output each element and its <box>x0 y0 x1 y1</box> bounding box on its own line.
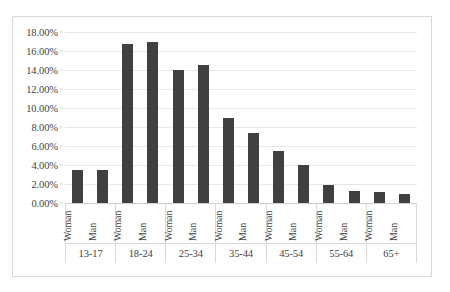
bars-layer <box>65 32 417 203</box>
bar[interactable] <box>97 170 108 203</box>
series-label: Woman <box>313 211 324 241</box>
x-axis-category-cell: WomanMan25-34 <box>165 203 215 263</box>
bar-slot <box>291 32 316 203</box>
category-label: 35-44 <box>229 248 253 259</box>
category-label: 55-64 <box>329 248 353 259</box>
bar-slot <box>266 32 291 203</box>
bar-group <box>216 32 266 203</box>
x-axis-category-cell: WomanMan65+ <box>366 203 417 263</box>
bar-slot <box>216 32 241 203</box>
category-label-row: 45-54 <box>267 244 316 263</box>
bar-slot <box>65 32 90 203</box>
plot-area <box>65 32 417 203</box>
series-label: Woman <box>263 211 274 241</box>
bar-group <box>65 32 115 203</box>
y-axis: 18.00%16.00%14.00%12.00%10.00%8.00%6.00%… <box>13 32 63 203</box>
bar-slot <box>392 32 417 203</box>
x-axis-category-cell: WomanMan45-54 <box>266 203 316 263</box>
series-label: Man <box>187 223 198 241</box>
bar[interactable] <box>349 191 360 203</box>
bar[interactable] <box>298 165 309 203</box>
y-axis-tick-label: 10.00% <box>26 103 58 114</box>
x-axis-category-cell: WomanMan55-64 <box>316 203 366 263</box>
x-axis: WomanMan13-17WomanMan18-24WomanMan25-34W… <box>65 203 417 263</box>
bar[interactable] <box>198 65 209 203</box>
series-label: Man <box>87 223 98 241</box>
bar[interactable] <box>374 192 385 203</box>
category-label-row: 25-34 <box>166 244 215 263</box>
bar-group <box>316 32 366 203</box>
bar-slot <box>367 32 392 203</box>
y-axis-tick-mark <box>59 203 63 204</box>
bar-slot <box>191 32 216 203</box>
bar[interactable] <box>147 42 158 204</box>
category-label-row: 35-44 <box>216 244 265 263</box>
series-label-row: WomanMan <box>267 203 316 244</box>
y-axis-tick-label: 12.00% <box>26 84 58 95</box>
y-axis-tick-label: 18.00% <box>26 27 58 38</box>
bar-group <box>115 32 165 203</box>
category-label: 13-17 <box>79 248 103 259</box>
y-axis-tick-mark <box>59 32 63 33</box>
series-label: Woman <box>62 211 73 241</box>
series-label: Man <box>338 223 349 241</box>
y-axis-tick-label: 14.00% <box>26 65 58 76</box>
y-axis-tick-mark <box>59 108 63 109</box>
x-axis-category-cell: WomanMan35-44 <box>215 203 265 263</box>
bar[interactable] <box>399 194 410 203</box>
series-label: Woman <box>163 211 174 241</box>
y-axis-tick-label: 16.00% <box>26 46 58 57</box>
bar-slot <box>115 32 140 203</box>
category-label: 18-24 <box>129 248 153 259</box>
bar[interactable] <box>173 70 184 203</box>
y-axis-tick-label: 0.00% <box>31 198 58 209</box>
bar[interactable] <box>122 44 133 203</box>
category-label-row: 13-17 <box>66 244 115 263</box>
series-label-row: WomanMan <box>116 203 165 244</box>
y-axis-tick-mark <box>59 70 63 71</box>
series-label: Man <box>237 223 248 241</box>
series-label-cell: Man <box>141 203 166 243</box>
series-label: Woman <box>213 211 224 241</box>
y-axis-tick-mark <box>59 127 63 128</box>
y-axis-tick-mark <box>59 51 63 52</box>
x-axis-category-cell: WomanMan18-24 <box>115 203 165 263</box>
series-label-row: WomanMan <box>367 203 416 244</box>
bar-slot <box>166 32 191 203</box>
series-label: Woman <box>363 211 374 241</box>
series-label: Man <box>287 223 298 241</box>
category-label: 25-34 <box>179 248 203 259</box>
bar[interactable] <box>273 151 284 203</box>
series-label-cell: Man <box>391 203 416 243</box>
series-label-row: WomanMan <box>317 203 366 244</box>
category-label-row: 18-24 <box>116 244 165 263</box>
bar-slot <box>140 32 165 203</box>
series-label-cell: Man <box>191 203 216 243</box>
series-label: Man <box>388 223 399 241</box>
y-axis-tick-mark <box>59 184 63 185</box>
series-label: Woman <box>112 211 123 241</box>
y-axis-tick-mark <box>59 146 63 147</box>
y-axis-tick-mark <box>59 165 63 166</box>
bar[interactable] <box>323 185 334 203</box>
series-label-row: WomanMan <box>216 203 265 244</box>
y-axis-tick-label: 8.00% <box>31 122 58 133</box>
bar[interactable] <box>223 118 234 204</box>
y-axis-tick-mark <box>59 89 63 90</box>
chart-figure: 18.00%16.00%14.00%12.00%10.00%8.00%6.00%… <box>12 16 432 277</box>
bar[interactable] <box>72 170 83 203</box>
series-label-row: WomanMan <box>66 203 115 244</box>
category-label-row: 65+ <box>367 244 416 263</box>
y-axis-tick-label: 4.00% <box>31 160 58 171</box>
bar-group <box>166 32 216 203</box>
y-axis-tick-label: 2.00% <box>31 179 58 190</box>
bar[interactable] <box>248 133 259 203</box>
bar-slot <box>342 32 367 203</box>
bar-slot <box>316 32 341 203</box>
y-axis-tick-label: 6.00% <box>31 141 58 152</box>
bar-group <box>367 32 417 203</box>
category-label: 65+ <box>383 248 399 259</box>
bar-slot <box>241 32 266 203</box>
category-label-row: 55-64 <box>317 244 366 263</box>
bar-slot <box>90 32 115 203</box>
